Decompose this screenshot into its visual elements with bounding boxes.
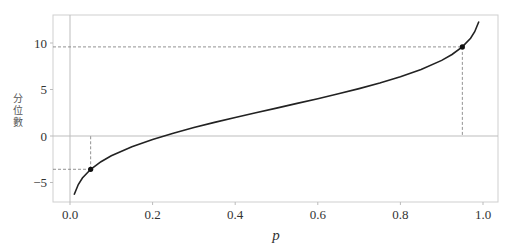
x-tick-label: 0.6 [310,207,327,222]
y-tick-label: 0 [41,129,48,144]
x-tick-label: 1.0 [475,207,491,222]
highlight-point [460,44,465,49]
x-tick-label: 0.0 [62,207,78,222]
y-axis-label: 分位數 [11,93,25,129]
highlight-point [88,167,93,172]
x-axis-label: p [271,227,280,243]
x-axis-ticks: 0.00.20.40.60.81.0 [62,202,491,222]
x-tick-label: 0.2 [144,207,160,222]
dashed-guides [53,47,462,169]
y-tick-label: 5 [41,82,48,97]
quantile-chart: 0.00.20.40.60.81.0 −50510 p [0,0,516,248]
x-tick-label: 0.8 [392,207,408,222]
y-axis-ticks: −50510 [33,36,53,191]
quantile-curve [74,22,479,195]
y-tick-label: −5 [33,175,47,190]
y-tick-label: 10 [34,36,47,51]
x-tick-label: 0.4 [227,207,244,222]
